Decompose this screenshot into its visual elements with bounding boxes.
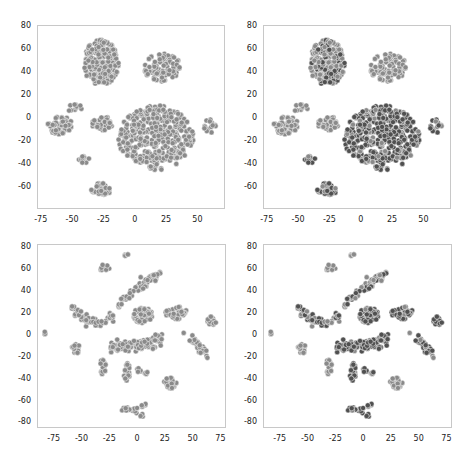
y-tick-label: -20 <box>18 352 31 361</box>
y-tick-label: 80 <box>247 21 257 30</box>
x-tick-label: -75 <box>273 434 286 443</box>
y-tick-label: 40 <box>247 67 257 76</box>
x-tick-label: 50 <box>192 215 202 224</box>
x-tick-label: -75 <box>260 215 273 224</box>
x-tick-label: 25 <box>160 434 170 443</box>
y-tick-label: 20 <box>21 90 31 99</box>
y-tick-label: 80 <box>21 242 31 251</box>
y-tick-label: 80 <box>247 242 257 251</box>
y-tick-label: -60 <box>244 396 257 405</box>
y-tick-label: 0 <box>252 330 257 339</box>
y-tick-label: 60 <box>247 44 257 53</box>
x-tick-label: 50 <box>418 215 428 224</box>
y-tick-label: 60 <box>21 44 31 53</box>
y-tick-label: -20 <box>18 136 31 145</box>
y-tick-label: -20 <box>244 352 257 361</box>
y-tick-label: 60 <box>21 264 31 273</box>
x-tick-label: -50 <box>66 215 79 224</box>
x-tick-label: -25 <box>97 215 110 224</box>
y-tick-label: 40 <box>247 286 257 295</box>
y-tick-label: -60 <box>244 182 257 191</box>
plot-frame <box>264 245 452 428</box>
scatter-plot: -75-50-250255075-80-60-40-20020406080 <box>37 244 226 428</box>
y-tick-label: -40 <box>18 374 31 383</box>
y-tick-label: 20 <box>247 308 257 317</box>
y-tick-label: -80 <box>244 417 257 426</box>
y-tick-label: -80 <box>18 417 31 426</box>
plot-frame <box>38 245 226 428</box>
y-tick-label: 20 <box>21 308 31 317</box>
y-tick-label: 60 <box>247 264 257 273</box>
x-tick-label: 0 <box>132 215 137 224</box>
x-tick-label: 50 <box>188 434 198 443</box>
y-tick-label: -40 <box>244 159 257 168</box>
x-tick-label: -75 <box>47 434 60 443</box>
y-tick-label: 0 <box>252 113 257 122</box>
y-tick-label: -60 <box>18 396 31 405</box>
x-tick-label: 25 <box>387 215 397 224</box>
x-tick-label: -50 <box>301 434 314 443</box>
x-tick-label: 75 <box>441 434 451 443</box>
x-tick-label: 0 <box>358 215 363 224</box>
scatter-plot: -75-50-2502550-60-40-20020406080 <box>263 25 451 209</box>
x-tick-label: -75 <box>34 215 47 224</box>
y-tick-label: 80 <box>21 21 31 30</box>
y-tick-label: 0 <box>26 330 31 339</box>
x-tick-label: -25 <box>329 434 342 443</box>
y-tick-label: 40 <box>21 286 31 295</box>
scatter-plot: -75-50-250255075-80-60-40-20020406080 <box>263 244 452 428</box>
x-tick-label: -50 <box>292 215 305 224</box>
x-tick-label: -50 <box>75 434 88 443</box>
scatter-panel-bottom-right: -75-50-250255075-80-60-40-20020406080 <box>263 244 452 428</box>
x-tick-label: 0 <box>361 434 366 443</box>
scatter-panel-top-left: -75-50-2502550-60-40-20020406080 <box>37 25 225 209</box>
y-tick-label: -20 <box>244 136 257 145</box>
y-tick-label: -40 <box>18 159 31 168</box>
x-tick-label: -25 <box>323 215 336 224</box>
scatter-plot: -75-50-2502550-60-40-20020406080 <box>37 25 225 209</box>
y-tick-label: 20 <box>247 90 257 99</box>
scatter-panel-top-right: -75-50-2502550-60-40-20020406080 <box>263 25 451 209</box>
x-tick-label: 25 <box>386 434 396 443</box>
y-tick-label: -40 <box>244 374 257 383</box>
x-tick-label: 50 <box>414 434 424 443</box>
x-tick-label: 25 <box>161 215 171 224</box>
y-tick-label: 0 <box>26 113 31 122</box>
y-tick-label: -60 <box>18 182 31 191</box>
y-tick-label: 40 <box>21 67 31 76</box>
x-tick-label: 0 <box>135 434 140 443</box>
scatter-panel-bottom-left: -75-50-250255075-80-60-40-20020406080 <box>37 244 226 428</box>
x-tick-label: 75 <box>215 434 225 443</box>
x-tick-label: -25 <box>103 434 116 443</box>
